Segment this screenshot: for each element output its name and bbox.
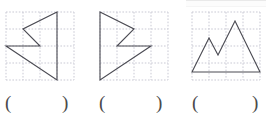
answer-row-3: ( ): [186, 92, 267, 118]
dotted-grid-3: [192, 12, 260, 80]
answer-paren-open-1: (: [5, 92, 11, 114]
answer-paren-open-3: (: [192, 92, 198, 114]
grid-box-3: [192, 12, 260, 82]
figure-1-svg: [6, 12, 74, 82]
figure-1-shape: [6, 12, 57, 80]
figure-3-svg: [192, 12, 260, 82]
answer-paren-open-2: (: [99, 92, 105, 114]
grid-box-2: [100, 12, 168, 82]
answer-row-2: ( ): [94, 92, 183, 118]
figure-2-svg: [100, 12, 168, 82]
grid-box-1: [6, 12, 74, 82]
answer-paren-close-3: ): [252, 92, 258, 114]
problem-1: ( ): [0, 0, 89, 123]
problem-2: ( ): [94, 0, 183, 123]
answer-paren-close-1: ): [62, 92, 68, 114]
worksheet-canvas: ( ) (: [0, 0, 267, 123]
answer-paren-close-2: ): [156, 92, 162, 114]
problem-3: ( ): [186, 0, 267, 123]
answer-row-1: ( ): [0, 92, 89, 118]
